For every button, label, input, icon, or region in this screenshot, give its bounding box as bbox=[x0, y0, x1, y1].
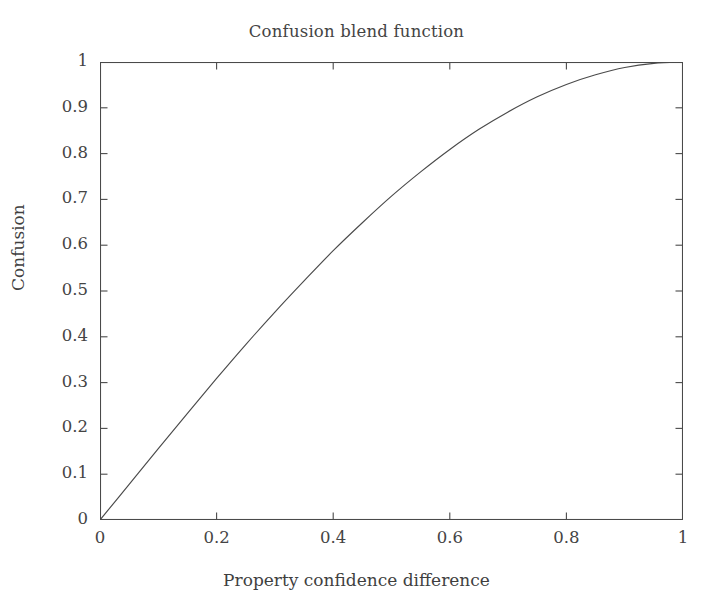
data-curve bbox=[100, 62, 683, 520]
x-tick-label: 0.4 bbox=[320, 528, 346, 547]
x-tick-label: 0.6 bbox=[437, 528, 463, 547]
x-tick-label: 0.2 bbox=[203, 528, 229, 547]
axis-tick-marks bbox=[101, 63, 683, 520]
plot-area bbox=[100, 62, 683, 520]
x-tick-label: 1 bbox=[678, 528, 689, 547]
axis-box bbox=[101, 63, 683, 520]
x-tick-label: 0.8 bbox=[553, 528, 579, 547]
plot-frame-and-curve bbox=[100, 62, 683, 520]
x-tick-label: 0 bbox=[95, 528, 106, 547]
chart-figure: Confusion blend function Confusion Prope… bbox=[0, 0, 713, 611]
